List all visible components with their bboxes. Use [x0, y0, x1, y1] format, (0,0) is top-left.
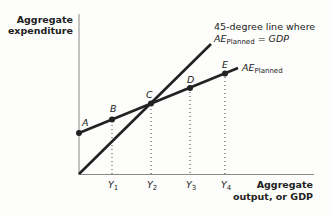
point-d: [187, 85, 193, 91]
point-e: [222, 71, 228, 77]
label-a: A: [81, 117, 89, 128]
x-axis-title-line2: output, or GDP: [233, 191, 313, 202]
y-axis-title-line2: expenditure: [8, 25, 73, 36]
label-d: D: [187, 74, 194, 85]
label-b: B: [110, 103, 117, 114]
line-45-label-line2: AEPlanned = GDP: [213, 33, 289, 46]
tick-y1: Y1: [108, 179, 118, 192]
point-c: [148, 101, 154, 107]
tick-y3: Y3: [186, 179, 196, 192]
point-a: [76, 130, 82, 136]
ae-planned-line: [79, 68, 238, 133]
line-45-label-line1: 45-degree line where: [214, 21, 315, 32]
label-c: C: [146, 89, 153, 100]
tick-y4: Y4: [221, 179, 232, 192]
point-b: [109, 117, 115, 123]
tick-y2: Y2: [147, 179, 157, 192]
keynesian-cross-diagram: A B C D E Aggregate expenditure 45-degre…: [0, 0, 333, 216]
y-axis-title-line1: Aggregate: [17, 14, 73, 25]
label-e: E: [222, 59, 228, 70]
x-axis-title-line1: Aggregate: [257, 179, 313, 190]
ae-planned-label: AEPlanned: [241, 62, 283, 75]
45-degree-line: [79, 44, 211, 174]
